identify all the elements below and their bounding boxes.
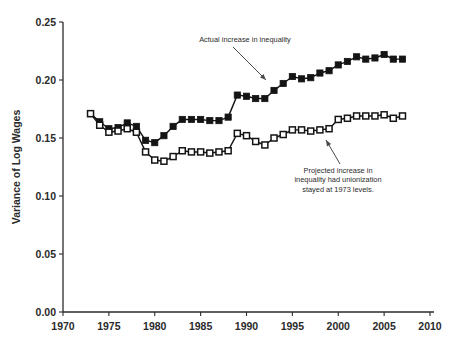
data-point-marker (354, 113, 360, 119)
data-point-marker (390, 115, 396, 121)
data-point-marker (280, 132, 286, 138)
data-point-marker (399, 56, 405, 62)
data-point-marker (262, 142, 268, 148)
data-point-marker (372, 113, 378, 119)
data-point-marker (262, 95, 268, 101)
data-point-marker (88, 111, 94, 117)
data-point-marker (308, 128, 314, 134)
x-axis-tick-label: 1985 (189, 320, 213, 332)
y-axis-tick-label: 0.10 (36, 190, 57, 202)
data-point-marker (133, 129, 139, 135)
annotation-text: Projected increase ininequality had unio… (294, 166, 381, 194)
data-point-marker (244, 133, 250, 139)
data-point-marker (344, 58, 350, 64)
data-point-marker (97, 122, 103, 128)
annotation-line: inequality had unionization (294, 175, 381, 184)
data-point-marker (188, 116, 194, 122)
data-point-marker (253, 95, 259, 101)
data-point-marker (115, 128, 121, 134)
data-point-marker (124, 126, 130, 132)
x-axis-tick-label: 1990 (235, 320, 259, 332)
x-axis-tick-label: 1970 (51, 320, 75, 332)
data-point-marker (152, 157, 158, 163)
data-point-marker (170, 123, 176, 129)
annotation-line: Actual increase in inequality (199, 35, 291, 44)
data-point-marker (363, 56, 369, 62)
data-point-marker (344, 115, 350, 121)
y-axis-title-label: Variance of Log Wages (10, 110, 22, 225)
data-point-marker (280, 80, 286, 86)
data-point-marker (188, 149, 194, 155)
y-axis-tick-label: 0.00 (36, 306, 57, 318)
y-axis-tick-label: 0.15 (36, 132, 57, 144)
data-point-marker (152, 140, 158, 146)
data-point-marker (207, 150, 213, 156)
data-point-marker (299, 127, 305, 133)
data-point-marker (106, 129, 112, 135)
data-point-marker (179, 148, 185, 154)
data-point-marker (372, 55, 378, 61)
data-point-marker (317, 70, 323, 76)
x-axis-tick-label: 1995 (281, 320, 305, 332)
data-point-marker (243, 93, 249, 99)
data-point-marker (143, 149, 149, 155)
x-axis-tick-label: 1975 (97, 320, 121, 332)
y-axis-tick-label: 0.25 (36, 16, 57, 28)
data-point-marker (335, 116, 341, 122)
data-point-marker (381, 112, 387, 118)
data-point-marker (170, 154, 176, 160)
data-point-marker (253, 138, 259, 144)
chart-figure: 0.000.050.100.150.200.25 197019751980198… (0, 0, 449, 352)
data-point-marker (142, 137, 148, 143)
y-axis-tick-label: 0.05 (36, 248, 57, 260)
data-point-marker (207, 118, 213, 124)
data-point-marker (198, 116, 204, 122)
data-point-marker (271, 135, 277, 141)
data-point-marker (363, 113, 369, 119)
data-point-marker (161, 133, 167, 139)
data-point-marker (326, 126, 332, 132)
data-point-marker (271, 87, 277, 93)
data-point-marker (234, 92, 240, 98)
data-point-marker (308, 75, 314, 81)
x-axis-tick-label: 2010 (418, 320, 442, 332)
x-axis-tick-label: 1980 (143, 320, 167, 332)
data-point-marker (198, 149, 204, 155)
data-point-marker (381, 51, 387, 57)
x-axis-tick-label: 2000 (327, 320, 351, 332)
data-point-marker (234, 130, 240, 136)
data-point-marker (317, 127, 323, 133)
data-point-marker (335, 62, 341, 68)
annotation-text: Actual increase in inequality (199, 35, 291, 44)
data-point-marker (216, 118, 222, 124)
data-point-marker (289, 73, 295, 79)
variance-of-log-wages-line-chart: 0.000.050.100.150.200.25 197019751980198… (0, 0, 449, 352)
y-axis-tick-label: 0.20 (36, 74, 57, 86)
data-point-marker (179, 116, 185, 122)
data-point-marker (326, 68, 332, 74)
data-point-marker (399, 113, 405, 119)
data-point-marker (289, 127, 295, 133)
data-point-marker (390, 56, 396, 62)
x-axis-tick-label: 2005 (372, 320, 396, 332)
data-point-marker (161, 158, 167, 164)
data-point-marker (225, 148, 231, 154)
data-point-marker (225, 114, 231, 120)
data-point-marker (216, 149, 222, 155)
data-point-marker (354, 54, 360, 60)
annotation-line: stayed at 1973 levels. (302, 185, 374, 194)
y-axis-title: Variance of Log Wages (10, 110, 22, 225)
annotation-line: Projected increase in (303, 166, 372, 175)
data-point-marker (298, 76, 304, 82)
